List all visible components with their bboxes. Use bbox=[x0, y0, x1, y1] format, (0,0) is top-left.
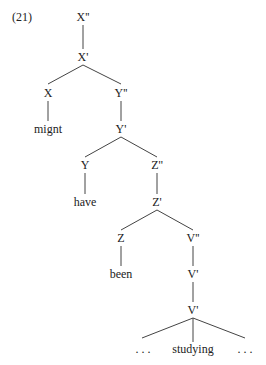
node-y: Y bbox=[81, 158, 90, 172]
node-v-double-bar: V'' bbox=[187, 231, 200, 245]
node-z: Z bbox=[117, 231, 124, 245]
leaf-studying: studying bbox=[172, 342, 213, 356]
leaf-ellipsis-left: . . . bbox=[136, 342, 151, 356]
leaf-been: been bbox=[110, 267, 133, 281]
node-v-bar-lower: V' bbox=[188, 303, 199, 317]
leaf-might: mignt bbox=[34, 122, 62, 136]
leaf-have: have bbox=[74, 195, 97, 209]
node-y-bar: Y' bbox=[116, 122, 127, 136]
node-x-double-bar: X'' bbox=[77, 10, 90, 24]
tree-edges bbox=[0, 0, 266, 365]
node-z-bar: Z' bbox=[152, 195, 162, 209]
example-number: (21) bbox=[12, 10, 32, 24]
node-x: X bbox=[44, 86, 53, 100]
node-x-bar: X' bbox=[78, 50, 89, 64]
node-y-double-bar: Y'' bbox=[115, 86, 128, 100]
node-z-double-bar: Z'' bbox=[151, 158, 163, 172]
leaf-ellipsis-right: . . . bbox=[238, 342, 253, 356]
node-v-bar-upper: V' bbox=[188, 267, 199, 281]
